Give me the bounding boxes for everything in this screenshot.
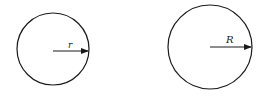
- small-circle: [17, 13, 89, 85]
- small-radius-label: r: [68, 40, 73, 50]
- large-circle-group: R: [168, 5, 252, 89]
- small-circle-group: r: [17, 13, 89, 85]
- large-radius-label: R: [225, 34, 234, 45]
- diagram-canvas: r R: [0, 0, 265, 102]
